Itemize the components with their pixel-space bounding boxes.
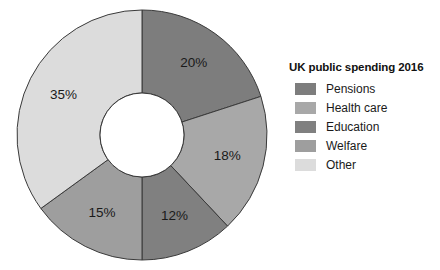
donut-hole (100, 93, 184, 177)
legend-swatch-icon (295, 159, 316, 171)
legend-item-label: Other (326, 158, 356, 172)
chart-container: 20%18%12%15%35% UK public spending 2016 … (0, 0, 440, 270)
legend-item-education[interactable]: Education (289, 117, 439, 136)
pie-label-pensions: 20% (180, 55, 207, 70)
pie-label-education: 12% (161, 208, 188, 223)
chart-legend: UK public spending 2016 PensionsHealth c… (289, 61, 439, 174)
legend-item-label: Welfare (326, 139, 367, 153)
legend-item-health-care[interactable]: Health care (289, 98, 439, 117)
legend-item-label: Education (326, 120, 379, 134)
legend-item-pensions[interactable]: Pensions (289, 79, 439, 98)
legend-swatch-icon (295, 102, 316, 114)
pie-label-health-care: 18% (214, 148, 241, 163)
pie-label-other: 35% (50, 87, 77, 102)
pie-label-welfare: 15% (89, 205, 116, 220)
legend-title: UK public spending 2016 (289, 61, 439, 73)
legend-item-label: Pensions (326, 82, 375, 96)
legend-item-other[interactable]: Other (289, 155, 439, 174)
legend-swatch-icon (295, 83, 316, 95)
legend-item-label: Health care (326, 101, 387, 115)
legend-swatch-icon (295, 140, 316, 152)
legend-items: PensionsHealth careEducationWelfareOther (289, 79, 439, 174)
legend-item-welfare[interactable]: Welfare (289, 136, 439, 155)
legend-swatch-icon (295, 121, 316, 133)
